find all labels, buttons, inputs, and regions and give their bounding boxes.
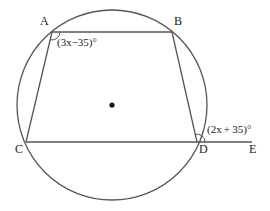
label-c: C	[15, 142, 23, 156]
label-d: D	[199, 142, 208, 156]
angle-label-d: (2x + 35)°	[207, 123, 251, 136]
cyclic-quadrilateral-diagram: A B C D E (3x−35)° (2x + 35)°	[0, 0, 270, 211]
center-dot	[109, 102, 114, 107]
angle-label-a: (3x−35)°	[57, 36, 97, 49]
label-b: B	[174, 14, 182, 28]
segment-ac	[26, 32, 52, 142]
label-a: A	[40, 14, 49, 28]
segment-bd	[172, 32, 197, 142]
label-e: E	[249, 142, 256, 156]
